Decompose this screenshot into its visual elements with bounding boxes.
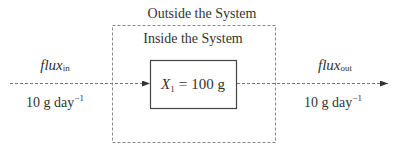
flux-out-exponent: −1: [352, 93, 362, 103]
pool-label: X1=100 g: [160, 76, 225, 94]
pool-value: 100 g: [191, 76, 225, 92]
flux-out-value-text: 10 g day: [304, 95, 352, 110]
flux-in-subscript: in: [63, 63, 71, 73]
flux-out-subscript: out: [340, 63, 352, 73]
flux-in-exponent: −1: [74, 93, 84, 103]
flux-in-value: 10 g day−1: [26, 93, 84, 110]
pool-equals: =: [179, 76, 187, 92]
flux-in-name: flux: [40, 57, 63, 73]
inside-system-label: Inside the System: [143, 31, 243, 46]
flux-out-value: 10 g day−1: [304, 93, 362, 110]
pool-subscript: 1: [170, 84, 175, 94]
flux-out-name: flux: [318, 57, 341, 73]
flux-in-value-text: 10 g day: [26, 95, 74, 110]
flux-out-label: fluxout: [318, 57, 353, 73]
outside-system-label: Outside the System: [148, 6, 257, 21]
flux-in-label: fluxin: [40, 57, 70, 73]
system-diagram: Outside the System Inside the System X1=…: [0, 0, 400, 150]
